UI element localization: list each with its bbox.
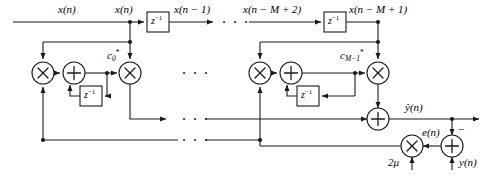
figure-canvas: x(n) x(n) x(n − 1) x(n − M + 2) x(n − M … <box>0 0 484 177</box>
label-x-n-minus-m-plus-2: x(n − M + 2) <box>243 4 301 15</box>
label-minus-sign: − <box>458 124 464 135</box>
coeff-delay-exp-first: −1 <box>88 88 95 96</box>
label-coefficient-last: cM−1* <box>340 49 364 62</box>
junction-error-first <box>41 138 45 142</box>
junction-coeff-first <box>105 71 109 75</box>
ellipsis-mid-row: · · · <box>182 67 210 79</box>
wire-tapmult-out-first <box>130 84 166 119</box>
junction-dots <box>41 20 454 142</box>
label-desired-signal: y(n) <box>459 157 477 168</box>
junction-yhat-branch <box>450 117 454 121</box>
label-y-hat: ŷ(n) <box>405 102 423 113</box>
coeff-delay-exp-last: −1 <box>305 88 312 96</box>
wire-coeff-delay-out-last <box>287 85 297 96</box>
wire-coeff-delay-out-first <box>70 85 80 96</box>
ellipsis-output-row: · · · <box>182 113 210 125</box>
junction-tap-last-lower <box>376 40 380 44</box>
label-x-n-minus-1: x(n − 1) <box>174 4 210 15</box>
delay-block-last-label: z−1 <box>328 15 339 26</box>
label-error: e(n) <box>422 127 440 138</box>
coefficient-delay-last-label: z−1 <box>301 89 312 100</box>
junction-error-last <box>258 138 262 142</box>
label-x-n-tap: x(n) <box>115 4 133 15</box>
label-x-n-minus-m-plus-1: x(n − M + 1) <box>349 4 407 15</box>
junction-tap-last <box>376 20 380 24</box>
label-coefficient-first: c0* <box>107 49 119 62</box>
label-step-size: 2μ <box>388 157 399 168</box>
delay-block-first-label: z−1 <box>151 15 162 26</box>
junction-tap-first <box>128 20 132 24</box>
ellipsis-error-row: · · · <box>182 134 210 146</box>
junction-coeff-last <box>353 71 357 75</box>
coeff-last-star: * <box>360 48 364 57</box>
coefficient-delay-first-label: z−1 <box>84 89 95 100</box>
coeff-last-sub: M−1 <box>345 54 360 63</box>
label-x-n-left: x(n) <box>58 4 76 15</box>
delay-exponent-text-last: −1 <box>332 14 339 22</box>
ellipsis-tap-line: · · · <box>222 16 250 28</box>
junction-tap-first-lower <box>128 40 132 44</box>
coeff-first-star: * <box>116 48 120 57</box>
delay-exponent-text: −1 <box>155 14 162 22</box>
